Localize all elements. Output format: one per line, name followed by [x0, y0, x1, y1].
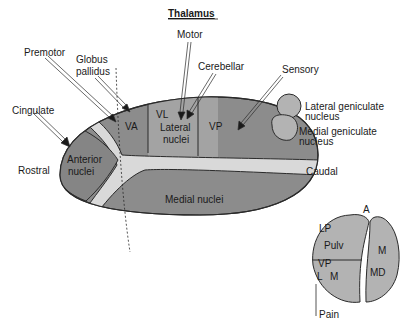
diagram-title: Thalamus [168, 8, 215, 19]
label-cs-pulv: Pulv [324, 240, 343, 251]
label-vp: VP [209, 121, 223, 132]
label-lateral-1: Lateral [160, 122, 191, 133]
label-medial-nuclei: Medial nuclei [165, 194, 223, 205]
label-cs-lp: LP [319, 223, 332, 234]
label-sensory: Sensory [282, 64, 319, 75]
label-cerebellar: Cerebellar [198, 61, 245, 72]
label-globus-pallidus-2: pallidus [76, 66, 110, 77]
thalamus-diagram: Thalamus [0, 0, 402, 331]
label-cs-l: L [317, 271, 323, 282]
cross-section-right [366, 217, 399, 302]
label-cs-vp: VP [318, 258, 332, 269]
label-globus-pallidus-1: Globus [76, 54, 108, 65]
label-mgn-2: nucleus [299, 136, 333, 147]
label-premotor: Premotor [24, 47, 66, 58]
label-cingulate: Cingulate [12, 105, 55, 116]
label-anterior-2: nuclei [68, 166, 94, 177]
label-cs-a: A [363, 204, 370, 215]
label-lgn-2: nucleus [305, 111, 339, 122]
label-cs-m-left: M [330, 271, 338, 282]
label-motor: Motor [177, 29, 203, 40]
label-va: VA [125, 121, 138, 132]
label-cs-md: MD [370, 267, 386, 278]
label-rostral: Rostral [18, 165, 50, 176]
label-lateral-2: nuclei [163, 134, 189, 145]
label-cs-m-right: M [378, 245, 386, 256]
label-anterior-1: Anterior [67, 154, 103, 165]
label-caudal: Caudal [306, 166, 338, 177]
label-cs-pain: Pain [319, 309, 339, 320]
label-vl: VL [156, 109, 169, 120]
